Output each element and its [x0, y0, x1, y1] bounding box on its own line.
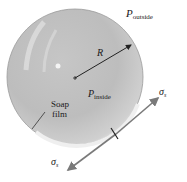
soap-film-label-line1: Soap	[51, 100, 69, 109]
soap-film-label-line2: film	[52, 110, 67, 119]
p-inside-label: Pinside	[88, 89, 111, 99]
sigma-s-lower-label: σs	[51, 157, 58, 167]
sigma-s-upper-label: σs	[159, 87, 166, 97]
p-outside-label: Poutside	[126, 8, 153, 19]
radius-label: R	[97, 48, 103, 58]
